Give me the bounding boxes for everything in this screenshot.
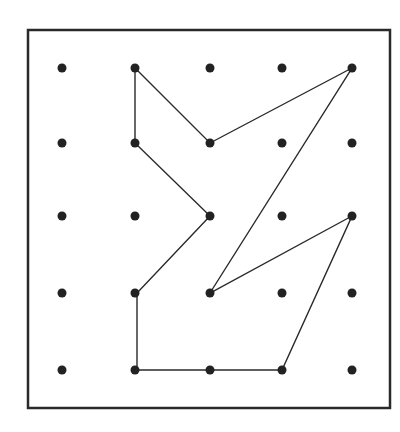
peg-dot — [278, 366, 287, 375]
peg-dot — [206, 366, 215, 375]
peg-dot — [278, 212, 287, 221]
peg-dot — [131, 289, 140, 298]
peg-dot — [348, 212, 357, 221]
peg-dot — [58, 139, 67, 148]
peg-dot — [131, 139, 140, 148]
peg-dot — [58, 289, 67, 298]
peg-dot — [278, 139, 287, 148]
peg-dot — [58, 212, 67, 221]
peg-dot — [348, 289, 357, 298]
peg-dot — [206, 64, 215, 73]
peg-dot — [131, 64, 140, 73]
peg-grid — [58, 64, 357, 375]
geoboard-diagram — [0, 0, 400, 432]
peg-dot — [348, 64, 357, 73]
peg-dot — [58, 64, 67, 73]
peg-dot — [278, 64, 287, 73]
peg-dot — [131, 366, 140, 375]
peg-dot — [206, 289, 215, 298]
peg-dot — [131, 212, 140, 221]
peg-dot — [58, 366, 67, 375]
peg-dot — [206, 212, 215, 221]
peg-dot — [348, 139, 357, 148]
peg-dot — [206, 139, 215, 148]
traced-polygon — [135, 68, 352, 370]
peg-dot — [278, 289, 287, 298]
peg-dot — [348, 366, 357, 375]
